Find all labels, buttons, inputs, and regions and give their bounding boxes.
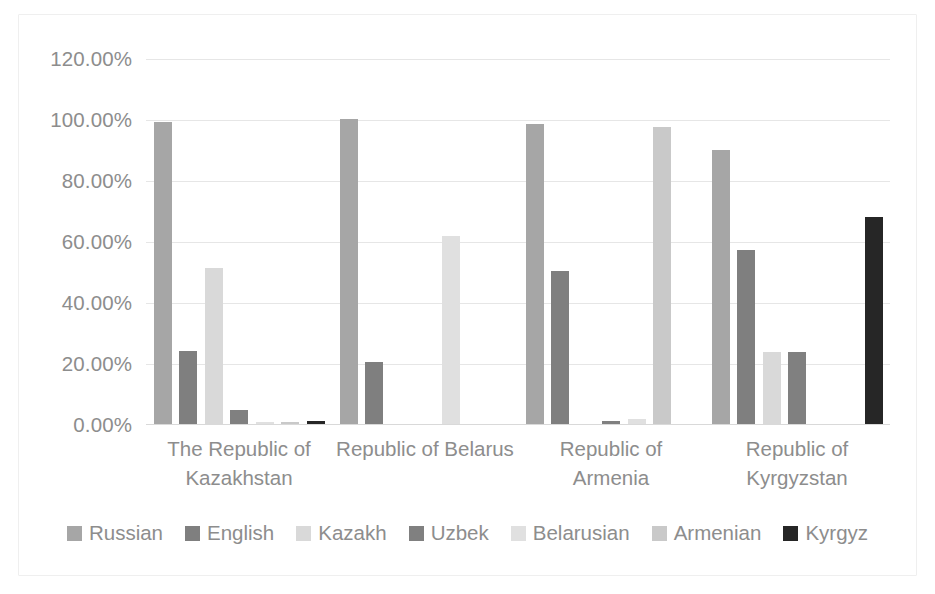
bar-slot bbox=[391, 58, 409, 424]
bar-slot bbox=[653, 58, 671, 424]
bar-slot bbox=[154, 58, 172, 424]
legend-swatch-icon bbox=[67, 526, 82, 541]
bar[interactable] bbox=[179, 351, 197, 424]
bar[interactable] bbox=[653, 127, 671, 424]
bar-slot bbox=[340, 58, 358, 424]
bar-slot bbox=[763, 58, 781, 424]
x-axis-category-labels: The Republic ofKazakhstanRepublic of Bel… bbox=[146, 434, 890, 504]
bar-slot bbox=[628, 58, 646, 424]
bar-slot bbox=[602, 58, 620, 424]
bar[interactable] bbox=[230, 410, 248, 424]
legend-label: Belarusian bbox=[533, 521, 630, 545]
legend-label: Kyrgyz bbox=[805, 521, 868, 545]
bar-slot bbox=[365, 58, 383, 424]
y-axis: 120.00%100.00%80.00%60.00%40.00%20.00%0.… bbox=[0, 59, 132, 425]
bar-group bbox=[704, 58, 890, 424]
bar-group bbox=[518, 58, 704, 424]
y-axis-tick-label: 60.00% bbox=[2, 230, 132, 254]
legend-label: Russian bbox=[89, 521, 163, 545]
bar[interactable] bbox=[865, 217, 883, 424]
legend-item[interactable]: Uzbek bbox=[409, 521, 489, 545]
x-axis-tick-label-line: Armenia bbox=[518, 463, 704, 492]
y-axis-tick-label: 0.00% bbox=[2, 413, 132, 437]
y-axis-tick-label: 100.00% bbox=[2, 108, 132, 132]
legend-item[interactable]: Armenian bbox=[652, 521, 762, 545]
bar-slot bbox=[551, 58, 569, 424]
bar[interactable] bbox=[551, 271, 569, 424]
legend-swatch-icon bbox=[783, 526, 798, 541]
legend-item[interactable]: Russian bbox=[67, 521, 163, 545]
legend-label: English bbox=[207, 521, 274, 545]
bar-slot bbox=[788, 58, 806, 424]
x-axis-tick-label-line: The Republic of bbox=[146, 434, 332, 463]
legend-item[interactable]: Belarusian bbox=[511, 521, 630, 545]
bar-slot bbox=[814, 58, 832, 424]
x-axis-tick-label-line: Kyrgyzstan bbox=[704, 463, 890, 492]
legend-item[interactable]: Kyrgyz bbox=[783, 521, 868, 545]
bar-slot bbox=[737, 58, 755, 424]
legend-label: Kazakh bbox=[318, 521, 386, 545]
bar[interactable] bbox=[712, 150, 730, 425]
bar[interactable] bbox=[205, 268, 223, 424]
legend-swatch-icon bbox=[511, 526, 526, 541]
x-axis-tick-label: The Republic ofKazakhstan bbox=[146, 434, 332, 492]
bar-slot bbox=[442, 58, 460, 424]
x-axis-tick-label: Republic ofArmenia bbox=[518, 434, 704, 492]
bar[interactable] bbox=[763, 352, 781, 424]
y-axis-tick-label: 80.00% bbox=[2, 169, 132, 193]
x-axis-tick-label-line: Republic of bbox=[518, 434, 704, 463]
x-axis-tick-label-line: Republic of Belarus bbox=[332, 434, 518, 463]
bar-slot bbox=[526, 58, 544, 424]
y-axis-tick-label: 20.00% bbox=[2, 352, 132, 376]
bar-slot bbox=[712, 58, 730, 424]
bar-slot bbox=[205, 58, 223, 424]
plot-area bbox=[146, 59, 890, 425]
legend-label: Armenian bbox=[674, 521, 762, 545]
chart-legend: RussianEnglishKazakhUzbekBelarusianArmen… bbox=[18, 521, 917, 545]
x-axis-tick-label: Republic of Belarus bbox=[332, 434, 518, 463]
legend-swatch-icon bbox=[185, 526, 200, 541]
bar-slot bbox=[577, 58, 595, 424]
bar-slot bbox=[179, 58, 197, 424]
bar-slot bbox=[467, 58, 485, 424]
bar-group bbox=[146, 58, 332, 424]
legend-label: Uzbek bbox=[431, 521, 489, 545]
bar[interactable] bbox=[365, 362, 383, 424]
legend-swatch-icon bbox=[652, 526, 667, 541]
x-axis-tick-label-line: Republic of bbox=[704, 434, 890, 463]
y-axis-tick-label: 40.00% bbox=[2, 291, 132, 315]
bar-slot bbox=[230, 58, 248, 424]
bar[interactable] bbox=[526, 124, 544, 424]
legend-item[interactable]: Kazakh bbox=[296, 521, 386, 545]
bar-slot bbox=[865, 58, 883, 424]
bar[interactable] bbox=[340, 119, 358, 424]
bar-slot bbox=[256, 58, 274, 424]
x-axis-tick-label-line: Kazakhstan bbox=[146, 463, 332, 492]
bar[interactable] bbox=[442, 236, 460, 424]
bar-group bbox=[332, 58, 518, 424]
bar-slot bbox=[839, 58, 857, 424]
bar[interactable] bbox=[737, 250, 755, 424]
bar-slot bbox=[307, 58, 325, 424]
y-axis-tick-label: 120.00% bbox=[2, 47, 132, 71]
bar-slot bbox=[493, 58, 511, 424]
axis-baseline bbox=[146, 424, 890, 425]
bar-slot bbox=[679, 58, 697, 424]
bar-slot bbox=[416, 58, 434, 424]
bar-chart-figure: 120.00%100.00%80.00%60.00%40.00%20.00%0.… bbox=[0, 0, 935, 594]
legend-swatch-icon bbox=[409, 526, 424, 541]
bar-slot bbox=[281, 58, 299, 424]
legend-swatch-icon bbox=[296, 526, 311, 541]
bar[interactable] bbox=[154, 122, 172, 424]
legend-item[interactable]: English bbox=[185, 521, 274, 545]
x-axis-tick-label: Republic ofKyrgyzstan bbox=[704, 434, 890, 492]
bar[interactable] bbox=[788, 352, 806, 424]
